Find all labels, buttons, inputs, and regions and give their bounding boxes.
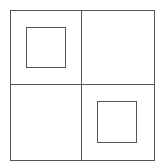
top-left-inner-square — [26, 27, 66, 68]
bottom-right-inner-square — [97, 101, 137, 143]
horizontal-divider — [10, 84, 155, 85]
vertical-divider — [81, 10, 82, 161]
